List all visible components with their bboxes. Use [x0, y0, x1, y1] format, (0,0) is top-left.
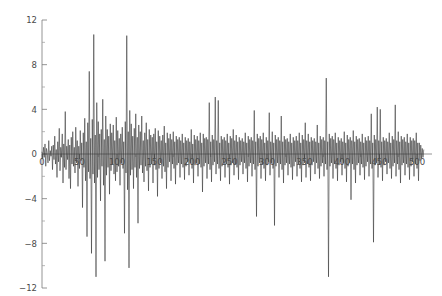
- x-tick-label: 200: [184, 157, 200, 167]
- y-tick-label: −12: [19, 283, 37, 293]
- x-tick-label: 450: [371, 157, 387, 167]
- data-series-group: [42, 35, 424, 277]
- x-tick-label: 400: [334, 157, 350, 167]
- x-tick-label: 50: [74, 157, 85, 167]
- y-tick-label: 12: [26, 15, 37, 25]
- series-line: [42, 35, 424, 277]
- x-tick-label: 100: [109, 157, 125, 167]
- y-tick-label: 8: [32, 60, 37, 70]
- y-tick-label: 4: [32, 105, 37, 115]
- chart-figure: −12−8−404812 050100150200250300350400450…: [0, 0, 442, 296]
- x-tick-label: 350: [296, 157, 312, 167]
- y-tick-label: −4: [24, 194, 37, 204]
- time-series-plot: −12−8−404812 050100150200250300350400450…: [0, 0, 442, 296]
- x-tick-label: 300: [259, 157, 275, 167]
- x-tick-label: 0: [39, 157, 44, 167]
- x-tick-label: 500: [409, 157, 425, 167]
- y-tick-label: 0: [32, 149, 37, 159]
- y-tick-label: −8: [24, 239, 37, 249]
- x-tick-label: 150: [146, 157, 162, 167]
- x-tick-label: 250: [221, 157, 237, 167]
